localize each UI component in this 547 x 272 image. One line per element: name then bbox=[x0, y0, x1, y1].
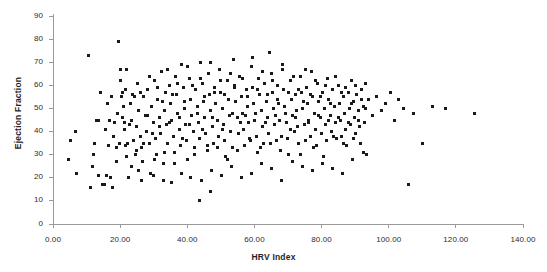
data-point bbox=[123, 121, 126, 124]
data-point bbox=[210, 169, 213, 172]
data-point bbox=[317, 100, 320, 103]
data-point bbox=[272, 107, 275, 110]
data-point bbox=[196, 105, 199, 108]
data-point bbox=[125, 155, 128, 158]
x-axis-tick-label: 60.00 bbox=[232, 235, 276, 244]
data-point bbox=[320, 132, 323, 135]
data-point bbox=[160, 70, 163, 73]
data-point bbox=[444, 107, 447, 110]
y-axis-tick-label: 0 bbox=[17, 219, 43, 228]
data-point bbox=[189, 176, 192, 179]
data-point bbox=[75, 172, 78, 175]
data-point bbox=[219, 91, 222, 94]
data-point bbox=[201, 128, 204, 131]
data-point bbox=[67, 158, 70, 161]
data-point bbox=[302, 100, 305, 103]
y-axis-title: Ejection Fraction bbox=[13, 53, 23, 173]
data-point bbox=[314, 79, 317, 82]
data-point bbox=[129, 102, 132, 105]
data-point bbox=[133, 95, 136, 98]
data-point bbox=[171, 93, 174, 96]
data-point bbox=[266, 93, 269, 96]
data-point bbox=[310, 70, 313, 73]
data-point bbox=[209, 61, 212, 64]
data-point bbox=[159, 132, 162, 135]
data-point bbox=[182, 86, 185, 89]
data-point bbox=[294, 116, 297, 119]
data-point bbox=[350, 79, 353, 82]
data-point bbox=[353, 116, 356, 119]
data-point bbox=[337, 116, 340, 119]
data-point bbox=[136, 82, 139, 85]
data-point bbox=[267, 132, 270, 135]
data-point bbox=[301, 165, 304, 168]
data-point bbox=[141, 160, 144, 163]
data-point bbox=[139, 135, 142, 138]
data-point bbox=[115, 160, 118, 163]
data-point bbox=[115, 146, 118, 149]
data-point bbox=[119, 68, 122, 71]
data-point bbox=[315, 144, 318, 147]
data-point bbox=[251, 56, 254, 59]
data-point bbox=[352, 137, 355, 140]
data-point bbox=[132, 139, 135, 142]
data-point bbox=[270, 167, 273, 170]
data-point bbox=[153, 79, 156, 82]
data-point bbox=[281, 63, 284, 66]
data-point bbox=[354, 132, 357, 135]
data-point bbox=[223, 139, 226, 142]
data-point bbox=[365, 153, 368, 156]
data-point bbox=[327, 119, 330, 122]
data-point bbox=[183, 100, 186, 103]
data-point bbox=[326, 77, 329, 80]
data-point bbox=[199, 61, 202, 64]
data-points bbox=[67, 40, 476, 202]
data-point bbox=[164, 91, 167, 94]
data-point bbox=[189, 98, 192, 101]
data-point bbox=[250, 65, 253, 68]
data-point bbox=[112, 135, 115, 138]
x-axis-tick-label: 140.00 bbox=[501, 235, 545, 244]
data-point bbox=[306, 102, 309, 105]
data-point bbox=[236, 149, 239, 152]
data-point bbox=[165, 123, 168, 126]
data-point bbox=[155, 153, 158, 156]
data-point bbox=[253, 119, 256, 122]
data-point bbox=[223, 93, 226, 96]
data-point bbox=[211, 116, 214, 119]
data-point bbox=[252, 102, 255, 105]
data-point bbox=[227, 98, 230, 101]
data-point bbox=[173, 162, 176, 165]
data-point bbox=[211, 125, 214, 128]
data-point bbox=[216, 146, 219, 149]
data-point bbox=[181, 137, 184, 140]
data-point bbox=[295, 109, 298, 112]
data-point bbox=[162, 179, 165, 182]
data-point bbox=[213, 86, 216, 89]
data-point bbox=[287, 91, 290, 94]
data-point bbox=[216, 119, 219, 122]
data-point bbox=[334, 121, 337, 124]
data-point bbox=[153, 158, 156, 161]
data-point bbox=[260, 109, 263, 112]
data-point bbox=[184, 123, 187, 126]
data-point bbox=[140, 179, 143, 182]
data-point bbox=[117, 40, 120, 43]
data-point bbox=[280, 179, 283, 182]
data-point bbox=[276, 98, 279, 101]
data-point bbox=[108, 119, 111, 122]
data-point bbox=[355, 93, 358, 96]
data-point bbox=[297, 142, 300, 145]
data-point bbox=[191, 84, 194, 87]
data-point bbox=[393, 119, 396, 122]
data-point bbox=[311, 169, 314, 172]
data-point bbox=[260, 162, 263, 165]
data-point bbox=[300, 91, 303, 94]
data-point bbox=[99, 91, 102, 94]
data-point bbox=[231, 112, 234, 115]
data-point bbox=[384, 102, 387, 105]
y-axis-tick-label: 10 bbox=[17, 195, 43, 204]
data-point bbox=[104, 128, 107, 131]
data-point bbox=[343, 112, 346, 115]
data-point bbox=[206, 149, 209, 152]
